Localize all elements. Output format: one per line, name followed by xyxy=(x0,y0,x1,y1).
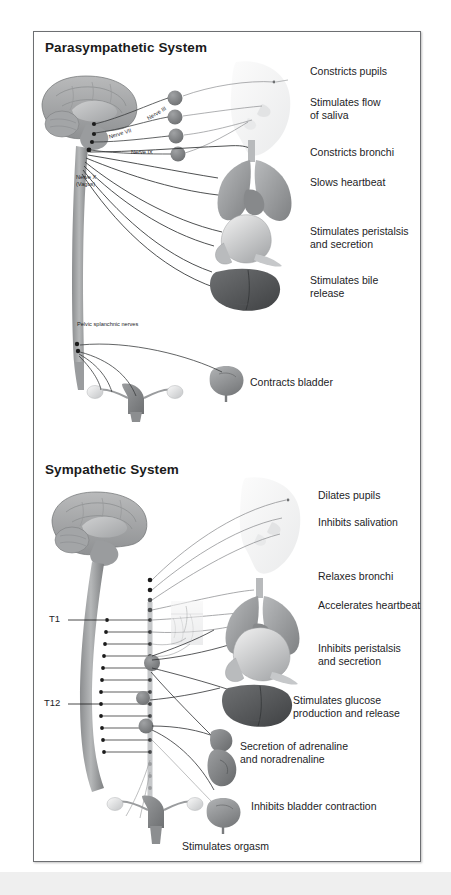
callout-relaxes-bronchi: Relaxes bronchi xyxy=(318,570,393,583)
callout-stimulates-orgasm: Stimulates orgasm xyxy=(182,840,269,853)
figure-page: Parasympathetic System Nerve III Nerve V… xyxy=(0,0,451,895)
callout-inhibits-peristalsis: Inhibits peristalsis and secretion xyxy=(318,642,401,668)
callout-inhibits-salivation: Inhibits salivation xyxy=(318,516,398,529)
callout-secretion-adrenaline: Secretion of adrenaline and noradrenalin… xyxy=(240,740,348,766)
sympathetic-panel: Sympathetic System T1 T12 Dilates pupils… xyxy=(0,0,451,895)
callout-accelerates-heartbeat: Accelerates heartbeat xyxy=(318,599,420,612)
spinal-level-t1: T1 xyxy=(49,613,60,624)
spinal-level-t12: T12 xyxy=(44,697,60,708)
callout-stimulates-glucose: Stimulates glucose production and releas… xyxy=(293,694,400,720)
callout-dilates-pupils: Dilates pupils xyxy=(318,489,380,502)
callout-inhibits-bladder-contraction: Inhibits bladder contraction xyxy=(251,800,377,813)
page-title-sympathetic: Sympathetic System xyxy=(45,462,179,477)
